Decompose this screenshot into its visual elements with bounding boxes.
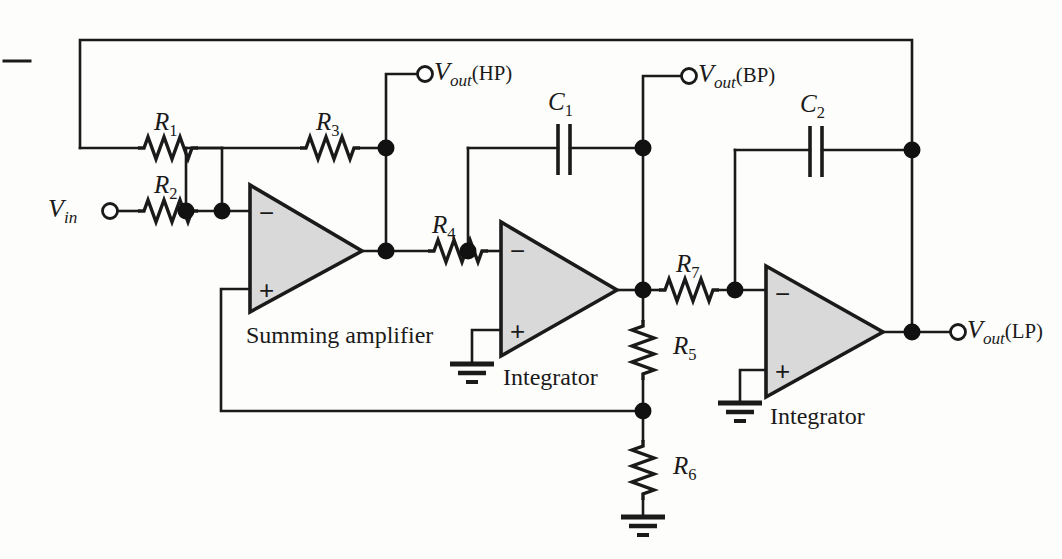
label-r3: R3 [316,108,340,141]
junction-bp-node-top [635,140,652,157]
junction-summing-output [378,243,395,260]
terminal-vout-hp-circle [418,67,433,82]
label-vout-hp: Vout(HP) [434,57,512,91]
opamp-integrator1-noninverting-sign: + [510,316,525,347]
label-c2: C2 [800,90,825,123]
circuit-schematic-svg [0,0,1062,559]
label-c1: C1 [548,88,573,121]
resistor-r6-symbol [632,440,654,500]
resistor-r5-symbol [632,320,654,380]
opamp-summing-inverting-sign: − [259,198,274,229]
opamp-integrator2-inverting-sign: − [775,279,790,310]
label-vout-lp: Vout(LP) [967,315,1043,349]
wire-int2-plus-to-gnd [740,370,766,403]
ground-r6 [621,517,665,535]
junction-r2-r3-node [178,203,195,220]
ground-integrator-2 [718,403,762,421]
junction-int1-inv-input [460,243,477,260]
junction-lp-node-top [904,142,921,159]
junction-int2-inv-input [727,282,744,299]
figure-canvas: R1 R2 R3 R4 R5 R6 R7 C1 C2 Vin Vout(HP) … [0,0,1062,559]
label-r6: R6 [673,452,697,485]
label-integrator-1: Integrator [503,364,598,391]
junction-r5-r6-tap [635,403,652,420]
ground-integrator-1 [450,364,494,382]
label-integrator-2: Integrator [770,403,865,430]
junction-bp-output [635,282,652,299]
terminal-vout-bp-circle [682,69,697,84]
terminal-vout-lp-circle [951,325,966,340]
label-r2: R2 [154,171,178,204]
resistor-symbols [138,137,719,500]
opamp-integrator2-noninverting-sign: + [775,356,790,387]
label-r1: R1 [154,108,178,141]
label-r4: R4 [432,211,456,244]
wire-int1-plus-to-gnd [472,330,501,364]
opamp-summing-noninverting-sign: + [259,275,274,306]
junction-summing-inv-input [214,203,231,220]
junction-lp-output [904,324,921,341]
label-vout-bp: Vout(BP) [698,59,775,93]
opamp-integrator1-inverting-sign: − [510,236,525,267]
label-vin: Vin [48,194,77,228]
junction-hp-node-top [378,140,395,157]
wire-bp-takeoff [643,76,682,148]
ground-symbols [450,364,762,535]
label-summing-amplifier: Summing amplifier [246,322,433,349]
wire-hp-takeoff [386,74,418,148]
label-r7: R7 [676,250,700,283]
terminal-vin-circle [103,204,118,219]
label-r5: R5 [673,332,697,365]
